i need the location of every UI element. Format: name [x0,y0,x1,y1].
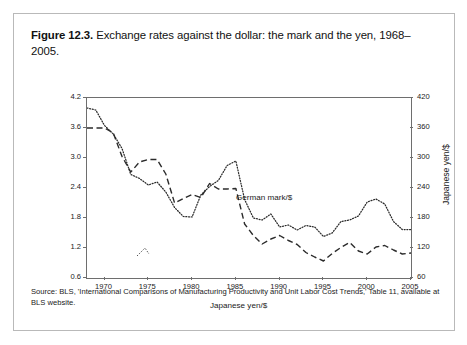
y-tick-left-0.6: 0.6 [59,272,81,281]
y-tick-right-60: 60 [417,272,439,281]
x-tick-mark [410,277,411,280]
y-tick-mark-right [410,127,413,128]
chart-plot-svg [87,98,411,278]
y-tick-left-1.8: 1.8 [59,212,81,221]
x-tick-mark [191,277,192,280]
y-tick-mark-left [83,157,86,158]
y-tick-mark-left [83,277,86,278]
y-tick-left-3.6: 3.6 [59,122,81,131]
x-tick-mark [147,277,148,280]
figure-number: Figure 12.3. [31,29,93,41]
x-tick-mark [322,277,323,280]
x-tick-mark [366,277,367,280]
chart-area: German mark/$ Japanese yen/$ German mark… [14,72,454,282]
y-tick-mark-left [83,217,86,218]
y-tick-mark-right [410,157,413,158]
y-tick-right-300: 300 [417,152,439,161]
y-tick-mark-left [83,97,86,98]
y-tick-right-180: 180 [417,212,439,221]
y-tick-right-420: 420 [417,92,439,101]
figure-caption: Figure 12.3. Exchange rates against the … [31,28,437,59]
y-tick-mark-left [83,187,86,188]
x-tick-mark [279,277,280,280]
y-tick-mark-right [410,247,413,248]
y-tick-right-360: 360 [417,122,439,131]
y-tick-mark-right [410,187,413,188]
y-tick-mark-left [83,247,86,248]
source-note: Source: BLS, 'International Comparisons … [31,286,443,308]
plot-frame [86,97,412,279]
y-tick-right-120: 120 [417,242,439,251]
y-axis-right-title: Japanese yen/$ [441,144,451,205]
figure-frame: Figure 12.3. Exchange rates against the … [13,13,455,331]
y-tick-left-1.2: 1.2 [59,242,81,251]
x-tick-mark [104,277,105,280]
y-tick-mark-right [410,97,413,98]
y-tick-left-3.0: 3.0 [59,152,81,161]
x-tick-mark [235,277,236,280]
y-tick-mark-right [410,217,413,218]
y-tick-left-2.4: 2.4 [59,182,81,191]
y-tick-right-240: 240 [417,182,439,191]
annotation-leaders [137,248,149,256]
series-label-german-mark: German mark/$ [236,193,292,202]
y-tick-mark-left [83,127,86,128]
series-german-mark [87,108,411,237]
y-tick-left-4.2: 4.2 [59,92,81,101]
